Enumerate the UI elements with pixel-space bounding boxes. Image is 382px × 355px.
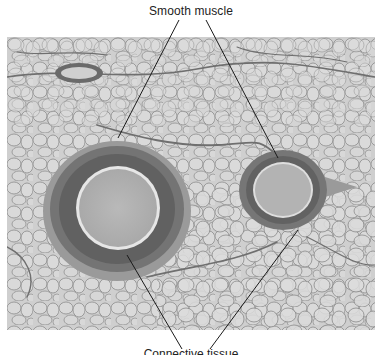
smooth-muscle-label: Smooth muscle [0, 4, 382, 18]
small-vessel [55, 63, 103, 83]
bottom-label-truncated: Connective tissue [0, 347, 382, 355]
large-vessel [43, 141, 191, 281]
micrograph-image [7, 37, 375, 330]
